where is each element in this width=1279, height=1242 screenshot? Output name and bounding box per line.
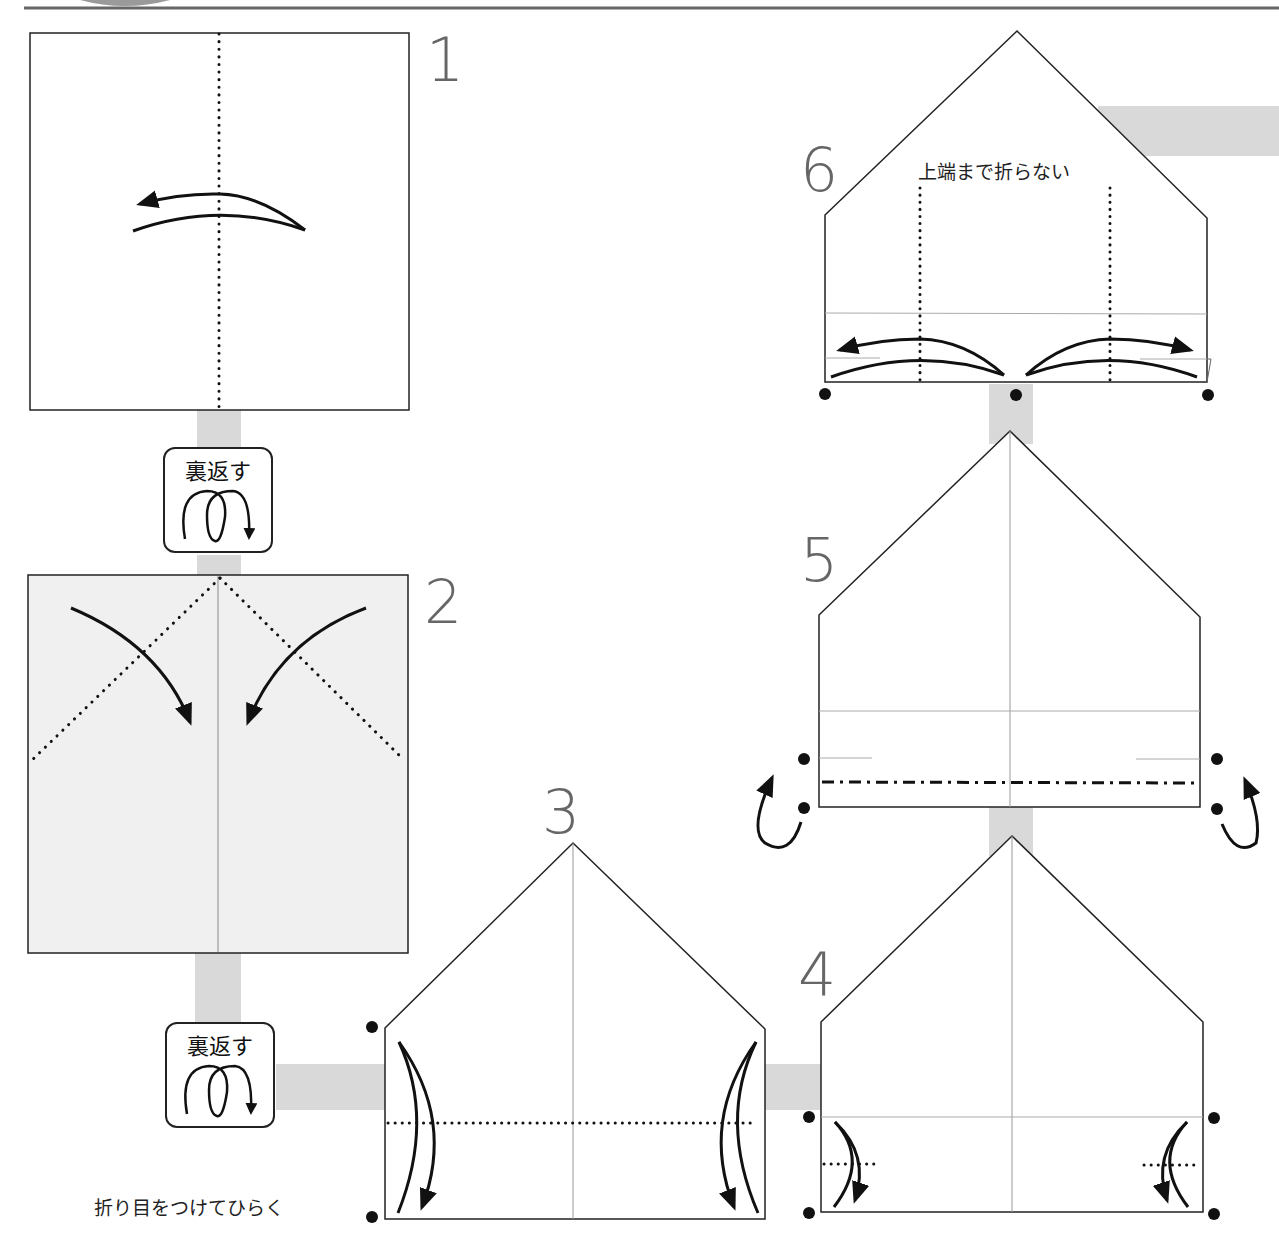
step-3-note: 折り目をつけてひらく	[94, 1193, 284, 1220]
flip-over-loop-icon	[177, 485, 261, 547]
flip-over-badge-2: 裏返す	[165, 1022, 275, 1128]
flip-over-badge-1: 裏返す	[163, 447, 273, 553]
step-number-6: 6	[800, 140, 838, 200]
header-rule	[24, 0, 1279, 8]
step-number-4: 4	[798, 945, 836, 1005]
step-3-diagram	[366, 843, 765, 1223]
flip-over-label: 裏返す	[165, 453, 271, 485]
step-number-3: 3	[542, 782, 580, 842]
flip-over-label: 裏返す	[167, 1028, 273, 1060]
step-number-2: 2	[424, 572, 462, 632]
step-5-diagram	[758, 431, 1258, 848]
step-number-1: 1	[426, 30, 464, 90]
step-6-note: 上端まで折らない	[918, 157, 1070, 184]
step-4-diagram	[803, 836, 1220, 1220]
step-number-5: 5	[800, 530, 838, 590]
step-6-diagram	[819, 31, 1214, 401]
step-1-diagram	[30, 33, 409, 410]
flip-over-loop-icon	[179, 1060, 263, 1122]
step-2-diagram	[28, 575, 408, 953]
